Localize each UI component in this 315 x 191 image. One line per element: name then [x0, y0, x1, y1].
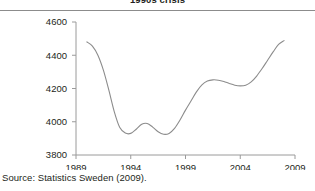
figure-container: 1990s crisis 38004000420044004600 198919… [0, 0, 315, 191]
y-tick-label: 3800 [46, 149, 67, 160]
x-axis-ticks [76, 155, 295, 159]
x-tick-label: 2009 [284, 162, 305, 170]
x-tick-label: 1999 [175, 162, 196, 170]
data-series-line [87, 41, 284, 135]
chart-title: 1990s crisis [0, 0, 315, 5]
x-tick-label: 1989 [65, 162, 86, 170]
x-axis-tick-labels: 19891994199920042009 [65, 162, 305, 170]
x-tick-label: 2004 [230, 162, 251, 170]
y-tick-label: 4400 [46, 50, 67, 61]
y-tick-label: 4600 [46, 16, 67, 27]
y-tick-label: 4200 [46, 83, 67, 94]
x-tick-label: 1994 [120, 162, 141, 170]
y-axis-ticks [72, 22, 76, 155]
y-axis-tick-labels: 38004000420044004600 [46, 16, 67, 160]
source-caption: Source: Statistics Sweden (2009). [2, 172, 147, 183]
y-tick-label: 4000 [46, 116, 67, 127]
plot-area: 38004000420044004600 1989199419992004200… [0, 12, 315, 170]
line-chart-svg: 38004000420044004600 1989199419992004200… [0, 12, 315, 170]
header-divider [0, 10, 315, 11]
